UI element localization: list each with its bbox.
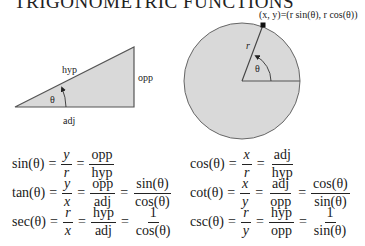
formula-lhs: cot(θ) (190, 185, 223, 201)
formula-lhs: sec(θ) (12, 214, 46, 230)
formula-lhs: csc(θ) (190, 214, 224, 230)
formula-lhs: sin(θ) (12, 156, 44, 172)
formula-sec: sec(θ) = rx = hypadj = 1cos(θ) (12, 206, 174, 238)
formula-grid: sin(θ) = yr = opphyp cos(θ) = xr = adjhy… (0, 0, 365, 246)
formula-lhs: tan(θ) (12, 185, 45, 201)
formula-lhs: cos(θ) (190, 156, 225, 172)
formula-csc: csc(θ) = ry = hypopp = 1sin(θ) (190, 206, 349, 238)
